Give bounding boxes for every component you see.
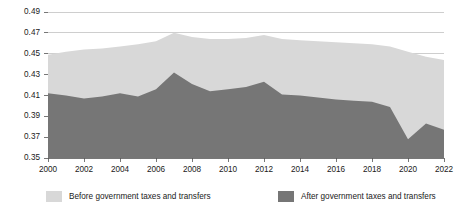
x-axis-tick-label: 2008 [183, 165, 202, 174]
legend-item-after: After government taxes and transfers [278, 191, 436, 202]
y-axis-tick-label: 0.43 [24, 70, 40, 79]
legend-label-after: After government taxes and transfers [301, 191, 436, 202]
area-series-group [48, 33, 444, 158]
x-axis-tick-label: 2000 [39, 165, 58, 174]
y-axis-tick-label: 0.45 [24, 49, 40, 58]
y-axis-tick-label: 0.35 [24, 153, 40, 162]
x-axis-tick-label: 2004 [111, 165, 130, 174]
legend-label-before: Before government taxes and transfers [69, 191, 211, 202]
y-axis-tick-label: 0.47 [24, 28, 40, 37]
x-axis-tick-label: 2014 [291, 165, 310, 174]
y-axis-tick-label: 0.37 [24, 132, 40, 141]
x-axis-tick-labels: 2000200220042006200820102012201420162018… [39, 165, 454, 174]
x-axis-tick-label: 2020 [399, 165, 418, 174]
legend-swatch-after [278, 191, 294, 202]
x-axis-tick-label: 2002 [75, 165, 94, 174]
y-axis-tick-label: 0.49 [24, 7, 40, 16]
x-axis-tick-label: 2016 [327, 165, 346, 174]
legend-swatch-before [46, 191, 62, 202]
x-axis-tick-label: 2012 [255, 165, 274, 174]
y-axis-tick-label: 0.41 [24, 91, 40, 100]
gini-area-chart: 0.350.370.390.410.430.450.470.49 2000200… [0, 0, 456, 218]
y-axis-tick-label: 0.39 [24, 111, 40, 120]
legend-item-before: Before government taxes and transfers [46, 191, 211, 202]
x-axis-tick-label: 2006 [147, 165, 166, 174]
y-axis-tick-labels: 0.350.370.390.410.430.450.470.49 [24, 7, 40, 162]
chart-canvas: 0.350.370.390.410.430.450.470.49 2000200… [0, 0, 456, 178]
x-axis-tick-label: 2022 [435, 165, 454, 174]
x-axis-tick-label: 2010 [219, 165, 238, 174]
chart-legend: Before government taxes and transfers Af… [0, 180, 456, 218]
plot-area: 0.350.370.390.410.430.450.470.49 2000200… [0, 0, 456, 178]
x-axis-tick-label: 2018 [363, 165, 382, 174]
